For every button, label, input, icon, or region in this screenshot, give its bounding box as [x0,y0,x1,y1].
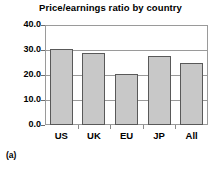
x-tick-label-jp: JP [143,130,176,142]
x-tick-mark [110,125,111,129]
x-axis-tick-labels: USUKEUJPAll [45,130,208,144]
bar-all [180,63,203,126]
bar-us [50,49,73,125]
x-tick-label-all: All [175,130,208,142]
x-tick-label-eu: EU [110,130,143,142]
bar-uk [82,53,105,125]
bars-group [45,25,208,125]
bar-jp [148,56,171,125]
x-tick-mark [175,125,176,129]
x-tick-label-us: US [45,130,78,142]
x-tick-label-uk: UK [78,130,111,142]
y-tick-label: 20.0 [0,70,41,79]
x-tick-mark [143,125,144,129]
chart-title: Price/earnings ratio by country [0,2,221,13]
y-axis-tick-labels: 0.010.020.030.040.0 [0,25,41,125]
figure-label: (a) [6,150,16,160]
y-tick-label: 30.0 [0,45,41,54]
x-tick-mark [78,125,79,129]
bar-eu [115,74,138,125]
y-tick-label: 0.0 [0,120,41,129]
y-tick-label: 40.0 [0,20,41,29]
y-tick-label: 10.0 [0,95,41,104]
bar-chart-figure: Price/earnings ratio by country 0.010.02… [0,0,221,170]
